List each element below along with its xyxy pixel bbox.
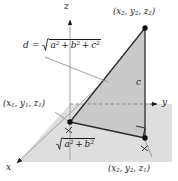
distance-formula-figure: z y x c (x2, y2, z2) (x1, y1, z1) (x2, y… — [0, 0, 178, 181]
figure-canvas — [0, 0, 178, 181]
side-c-label: c — [136, 78, 141, 87]
point-label-p2: (x2, y2, z2) — [113, 7, 155, 16]
base-length-label: a2 + b2 — [56, 138, 95, 149]
p1-z-sub: 1 — [38, 102, 41, 108]
p1-x-sub: 1 — [11, 102, 14, 108]
formula-leader-line — [45, 57, 108, 82]
p3-x-sub: 2 — [116, 167, 119, 173]
p2-y-sub: 2 — [135, 10, 138, 16]
base-radicand-a-exp: 2 — [70, 139, 74, 145]
y-axis-label: y — [162, 98, 167, 107]
radicand-a-exp: 2 — [56, 40, 60, 46]
x-axis-label: x — [6, 163, 11, 172]
radical-sign-icon — [42, 38, 49, 49]
distance-formula-label: d = a2 + b2 + c2 — [23, 39, 101, 50]
base-plus: + — [75, 139, 83, 149]
radical-base: a2 + b2 — [56, 138, 95, 149]
p2-z-sub: 2 — [148, 10, 151, 16]
equals-sign: = — [32, 40, 40, 50]
plus-2: + — [82, 40, 90, 50]
z-axis-label: z — [64, 2, 69, 11]
p1-y-sub: 1 — [25, 102, 28, 108]
base-radicand-b-exp: 2 — [90, 139, 94, 145]
radicand-b-exp: 2 — [76, 40, 80, 46]
distance-lhs: d — [23, 40, 29, 50]
radicand-c-exp: 2 — [96, 40, 100, 46]
radical-sign-icon-base — [56, 137, 63, 148]
radicand-distance: a2 + b2 + c2 — [49, 39, 101, 50]
radical-distance: a2 + b2 + c2 — [42, 39, 101, 50]
p2-x-sub: 2 — [121, 10, 124, 16]
point-label-p1: (x1, y1, z1) — [3, 99, 45, 108]
plus-1: + — [61, 40, 69, 50]
p3-z-sub: 1 — [143, 167, 146, 173]
radicand-base: a2 + b2 — [63, 138, 95, 149]
p3-y-sub: 2 — [130, 167, 133, 173]
point-label-p3: (x2, y2, z1) — [108, 164, 150, 173]
